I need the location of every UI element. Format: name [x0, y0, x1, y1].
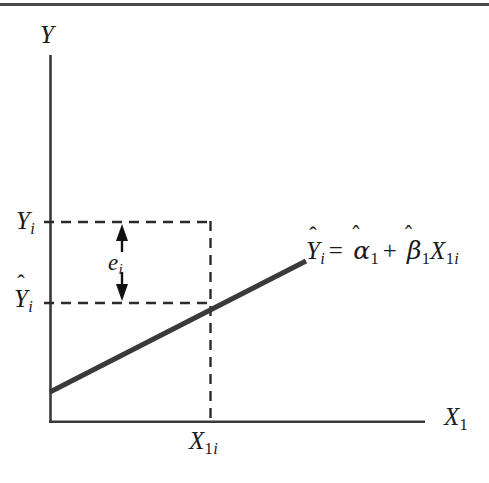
alpha-subscript: 1	[370, 249, 379, 268]
equation-var-subscript-one: 1	[445, 249, 454, 268]
beta-symbol: β	[407, 236, 421, 265]
observed-subscript: i	[30, 219, 35, 238]
alpha-with-hat: ̂α	[353, 238, 370, 263]
x-axis-label: X1	[444, 404, 468, 433]
beta-with-hat: ̂β	[407, 238, 421, 263]
y-tick-label-fitted: ̂Yi	[14, 286, 33, 315]
observed-base: Y	[16, 207, 30, 234]
equation-var-subscript-i: i	[454, 249, 459, 268]
fitted-subscript: i	[28, 297, 33, 316]
equation-var-base: X	[430, 237, 445, 264]
fitted-base-with-hat: ̂Y	[14, 286, 28, 311]
x-axis-label-subscript: 1	[459, 415, 468, 434]
residual-symbol: e	[108, 250, 118, 275]
x1i-base: X	[189, 427, 204, 454]
y-axis-label: Y	[40, 22, 54, 47]
x1i-subscript-i: i	[213, 439, 218, 458]
plus-sign: +	[379, 237, 401, 264]
x-tick-label-observation: X1i	[189, 428, 218, 457]
regression-residual-figure: Y X1 Yi ̂Yi X1i ei ̂Yi= ̂α1+ ̂β1X1i	[0, 0, 489, 483]
arrow-head-down	[116, 284, 128, 301]
equation-lhs-with-hat: ̂Y	[306, 238, 320, 263]
fitted-base: Y	[14, 285, 28, 312]
arrow-head-up	[116, 224, 128, 241]
beta-subscript: 1	[421, 249, 430, 268]
alpha-symbol: α	[353, 236, 370, 265]
x1i-subscript-one: 1	[204, 439, 213, 458]
equals-sign: =	[325, 237, 347, 264]
residual-label: ei	[108, 251, 123, 276]
regression-equation-label: ̂Yi= ̂α1+ ̂β1X1i	[306, 238, 459, 267]
residual-subscript: i	[118, 260, 123, 277]
equation-lhs-base: Y	[306, 237, 320, 264]
x-axis-label-base: X	[444, 403, 459, 430]
y-tick-label-observed: Yi	[16, 208, 35, 237]
regression-line	[50, 261, 306, 392]
